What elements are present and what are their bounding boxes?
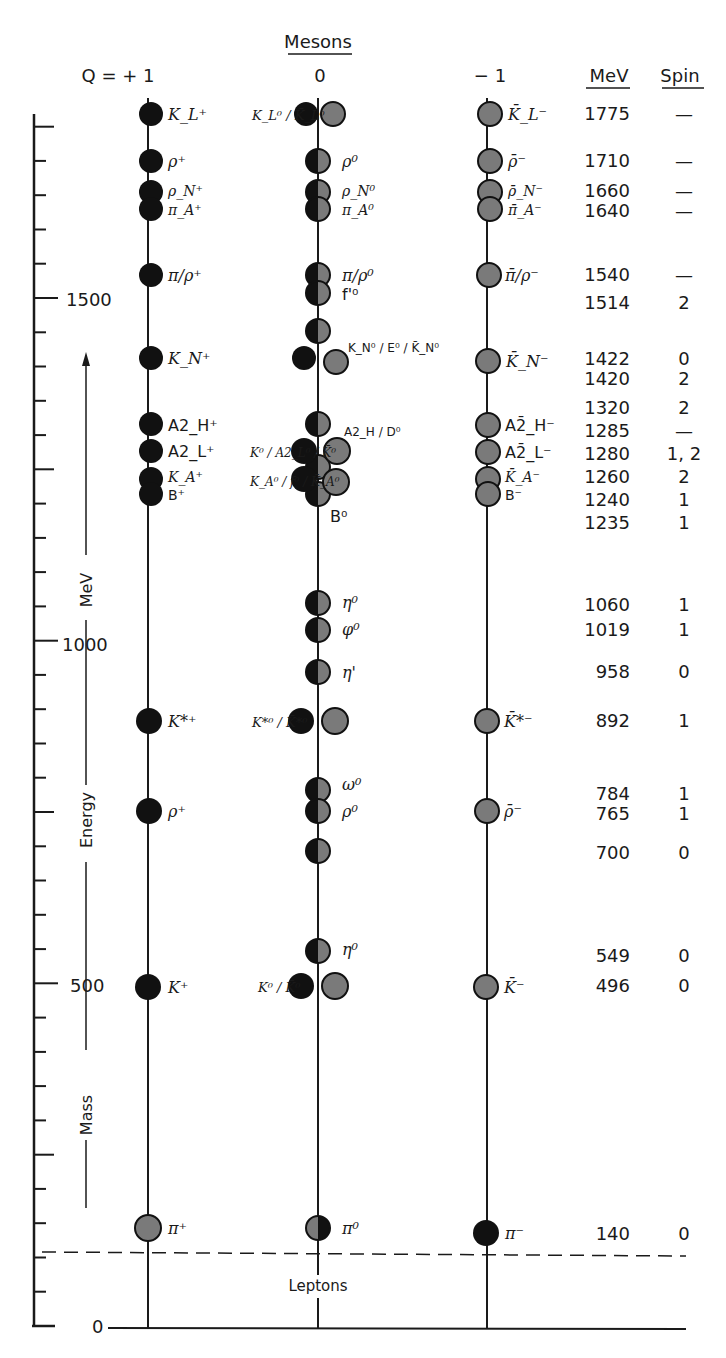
- antiparticle-dot[interactable]: [135, 1215, 161, 1241]
- antiparticle-dot[interactable]: [322, 973, 348, 999]
- mev-value: 1260: [584, 466, 630, 487]
- particle-label: π̄_A⁻: [507, 202, 542, 219]
- spin-value: 1: [678, 489, 689, 510]
- header-charge-plus: Q = + 1: [82, 65, 155, 86]
- particle-dot[interactable]: [135, 974, 161, 1000]
- particle-label: π/ρ⁺: [167, 266, 202, 285]
- antiparticle-dot[interactable]: [476, 413, 500, 437]
- antiparticle-dot[interactable]: [322, 708, 348, 734]
- particle-dot[interactable]: [473, 1220, 499, 1246]
- self-conjugate-dot[interactable]: [306, 319, 330, 343]
- self-conjugate-dot[interactable]: [306, 939, 330, 963]
- spin-value: —: [675, 200, 693, 221]
- particle-dot[interactable]: [292, 346, 316, 370]
- antiparticle-dot[interactable]: [476, 482, 500, 506]
- antiparticle-dot[interactable]: [476, 440, 500, 464]
- self-conjugate-dot[interactable]: [306, 1216, 330, 1240]
- mev-value: 1280: [584, 443, 630, 464]
- particle-dot[interactable]: [139, 346, 163, 370]
- particle-dot[interactable]: [139, 263, 163, 287]
- self-conjugate-dot[interactable]: [306, 149, 330, 173]
- mev-value: 784: [596, 783, 630, 804]
- particle-dot[interactable]: [139, 439, 163, 463]
- particle-label: π̄/ρ⁻: [504, 266, 539, 285]
- spin-value: 1: [678, 803, 689, 824]
- spin-value: 2: [678, 292, 689, 313]
- axis-label-energy: Energy: [77, 792, 96, 848]
- self-conjugate-dot[interactable]: [306, 591, 330, 615]
- mev-value: 1640: [584, 200, 630, 221]
- particle-label: π⁻: [504, 1224, 524, 1243]
- self-conjugate-dot[interactable]: [306, 281, 330, 305]
- particle-label: B⁻: [505, 487, 522, 503]
- spin-value: 0: [678, 945, 689, 966]
- particle-label: π/ρ⁰: [341, 266, 374, 285]
- antiparticle-dot[interactable]: [474, 975, 498, 999]
- antiparticle-dot[interactable]: [478, 102, 502, 126]
- particle-dot[interactable]: [136, 708, 162, 734]
- particle-dot[interactable]: [136, 798, 162, 824]
- particle-label: ρ̄⁻: [507, 152, 526, 171]
- particle-label: η⁰: [342, 940, 359, 959]
- particle-dot[interactable]: [139, 412, 163, 436]
- header-mev: MeV: [590, 65, 630, 86]
- self-conjugate-dot[interactable]: [306, 197, 330, 221]
- particle-label: π⁺: [167, 1219, 187, 1238]
- self-conjugate-dot[interactable]: [306, 839, 330, 863]
- particle-dot[interactable]: [139, 102, 163, 126]
- header-charge-minus: − 1: [474, 65, 506, 86]
- particle-label: K*⁺: [167, 712, 196, 731]
- particle-label: π_A⁰: [341, 202, 374, 219]
- self-conjugate-dot[interactable]: [306, 799, 330, 823]
- mev-value: 1710: [584, 150, 630, 171]
- self-conjugate-dot[interactable]: [306, 412, 330, 436]
- axis-label-mev: MeV: [77, 573, 96, 608]
- particle-dot[interactable]: [139, 197, 163, 221]
- mev-value: 549: [596, 945, 630, 966]
- particle-label: π_A⁺: [167, 202, 202, 219]
- spin-value: —: [675, 420, 693, 441]
- tick-label-500: 500: [70, 975, 104, 996]
- spin-value: 1: [678, 783, 689, 804]
- particle-label: B⁰: [330, 507, 347, 526]
- particle-label: ρ⁰: [341, 152, 358, 171]
- mev-value: 1540: [584, 264, 630, 285]
- mev-value: 1060: [584, 594, 630, 615]
- mev-value: 1422: [584, 348, 630, 369]
- particle-label: ρ̄_N⁻: [507, 183, 543, 200]
- particle-dot[interactable]: [139, 149, 163, 173]
- antiparticle-dot[interactable]: [475, 709, 499, 733]
- particle-label: K_L⁰ / K̄_L⁰: [251, 108, 326, 123]
- antiparticle-dot[interactable]: [478, 149, 502, 173]
- spin-value: —: [675, 103, 693, 124]
- self-conjugate-dot[interactable]: [306, 618, 330, 642]
- spin-value: 1: [678, 512, 689, 533]
- particle-label: π⁰: [341, 1219, 360, 1238]
- meson-energy-diagram: Mesons Q = + 1 0 − 1 MeV Spin 1500 1000 …: [0, 0, 726, 1358]
- particle-label: K*⁰ / K̄*⁰: [251, 715, 308, 730]
- spin-value: —: [675, 264, 693, 285]
- tick-label-0: 0: [92, 1316, 103, 1337]
- antiparticle-dot[interactable]: [475, 799, 499, 823]
- antiparticle-dot[interactable]: [477, 263, 501, 287]
- title: Mesons: [284, 31, 352, 52]
- mev-value: 1240: [584, 489, 630, 510]
- particle-label: f'⁰: [342, 285, 358, 304]
- particle-label: η': [342, 663, 356, 682]
- particle-label: K̄_L⁻: [507, 103, 547, 124]
- mev-value: 1019: [584, 619, 630, 640]
- antiparticle-dot[interactable]: [478, 197, 502, 221]
- mass-axis-ruler: [32, 114, 58, 1326]
- antiparticle-dot[interactable]: [476, 349, 500, 373]
- spin-value: 0: [678, 348, 689, 369]
- particle-label: K̄⁻: [503, 976, 524, 997]
- mev-value: 1235: [584, 512, 630, 533]
- particle-label: K_A⁰ / f⁰ / K̄_A⁰: [249, 474, 340, 489]
- self-conjugate-dot[interactable]: [306, 660, 330, 684]
- particle-label: K_N⁰ / E⁰ / K̄_N⁰: [348, 341, 439, 355]
- spin-value: —: [675, 180, 693, 201]
- mev-value: 892: [596, 710, 630, 731]
- antiparticle-dot[interactable]: [324, 350, 348, 374]
- particle-dot[interactable]: [139, 482, 163, 506]
- particle-label: B⁺: [168, 487, 185, 503]
